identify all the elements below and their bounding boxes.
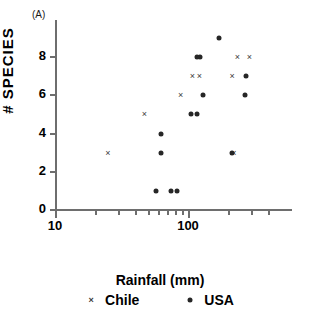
y-tick-label: 0 <box>0 201 46 216</box>
data-point-usa <box>194 55 199 60</box>
data-point-usa <box>194 112 199 117</box>
scatter-chart: (A) 02468 10100 # SPECIES Rainfall (mm) … <box>0 0 320 329</box>
data-point-usa <box>159 150 164 155</box>
x-axis-title: Rainfall (mm) <box>0 272 320 288</box>
data-point-usa <box>159 131 164 136</box>
chart-legend: ×ChileUSA <box>0 292 320 308</box>
data-point-chile: × <box>176 91 185 100</box>
cross-icon: × <box>86 295 96 305</box>
x-tick-minor <box>268 211 270 215</box>
data-point-chile: × <box>103 148 112 157</box>
x-tick-minor <box>135 211 137 215</box>
data-point-usa <box>201 93 206 98</box>
data-point-usa <box>217 35 222 40</box>
data-point-chile: × <box>233 53 242 62</box>
plot-area: ×××××××××× <box>55 20 292 210</box>
x-tick-major <box>188 211 190 218</box>
x-tick-minor <box>182 211 184 215</box>
x-tick-minor <box>95 211 97 215</box>
x-tick-major <box>55 211 57 218</box>
dot-icon <box>185 295 195 305</box>
panel-label: (A) <box>32 9 45 20</box>
legend-item-chile: ×Chile <box>86 292 139 308</box>
legend-label: Chile <box>105 292 139 308</box>
x-tick-minor <box>228 211 230 215</box>
data-point-usa <box>175 188 180 193</box>
data-point-usa <box>168 188 173 193</box>
data-point-usa <box>230 150 235 155</box>
x-tick-minor <box>118 211 120 215</box>
data-point-usa <box>153 188 158 193</box>
x-tick-minor <box>158 211 160 215</box>
x-tick-minor <box>251 211 253 215</box>
x-tick-minor <box>175 211 177 215</box>
x-tick-label: 100 <box>177 218 199 233</box>
x-tick-label: 10 <box>48 218 62 233</box>
x-tick-minor <box>148 211 150 215</box>
y-axis-title: # SPECIES <box>0 0 16 146</box>
x-tick-minor <box>167 211 169 215</box>
data-point-usa <box>243 93 248 98</box>
legend-item-usa: USA <box>185 292 234 308</box>
data-point-chile: × <box>228 72 237 81</box>
data-point-usa <box>188 112 193 117</box>
data-point-chile: × <box>140 110 149 119</box>
y-tick-label: 2 <box>0 163 46 178</box>
data-point-usa <box>243 74 248 79</box>
legend-label: USA <box>204 292 234 308</box>
data-point-chile: × <box>245 53 254 62</box>
data-point-chile: × <box>195 72 204 81</box>
